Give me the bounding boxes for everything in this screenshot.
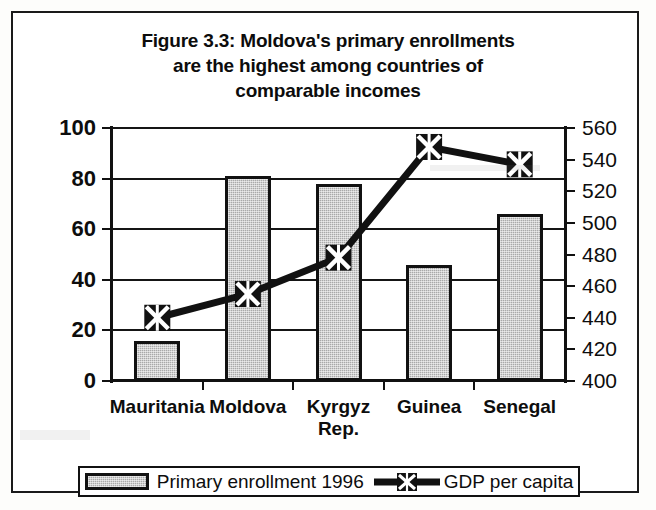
right-axis-tick (564, 159, 575, 161)
figure-page: Figure 3.3: Moldova's primary enrollment… (0, 0, 656, 510)
right-axis-tick (564, 317, 575, 319)
right-axis-tick-label: 460 (582, 274, 617, 298)
x-axis-category-label-line: Rep. (307, 418, 370, 440)
left-axis-tick (102, 178, 112, 180)
figure-title-line-2: are the highest among countries of (40, 53, 616, 78)
figure-title: Figure 3.3: Moldova's primary enrollment… (40, 28, 616, 103)
left-axis-tick (102, 228, 112, 230)
gdp-marker (507, 151, 533, 177)
gdp-marker (144, 305, 170, 331)
gdp-line (157, 147, 519, 318)
right-axis-tick-label: 540 (582, 148, 617, 172)
gdp-markers (144, 134, 532, 331)
legend-item-primary-enrollment: Primary enrollment 1996 (85, 471, 364, 493)
right-axis-tick-label: 480 (582, 243, 617, 267)
bar-swatch-icon (85, 473, 149, 490)
x-axis-category-label: Guinea (397, 396, 461, 418)
left-axis-tick (102, 279, 112, 281)
left-axis-tick (102, 380, 112, 382)
x-axis-category-label: Senegal (483, 396, 556, 418)
x-axis-category-label: KyrgyzRep. (307, 396, 370, 440)
left-axis-tick (102, 127, 112, 129)
left-axis-tick-label: 20 (72, 317, 96, 343)
x-axis-category-label: Moldova (209, 396, 286, 418)
figure-title-line-3: comparable incomes (40, 78, 616, 103)
gdp-marker (326, 245, 352, 271)
left-axis-tick-label: 0 (84, 368, 96, 394)
line-series (112, 128, 565, 381)
left-axis-tick-label: 40 (72, 267, 96, 293)
x-axis-category-label-line: Kyrgyz (307, 396, 370, 417)
right-axis-tick-label: 400 (582, 369, 617, 393)
line-x-marker-icon (374, 472, 440, 492)
right-axis-tick-label: 500 (582, 211, 617, 235)
right-axis-tick-label: 440 (582, 306, 617, 330)
x-axis-category-label-line: Senegal (483, 396, 556, 417)
right-axis-tick-label: 560 (582, 116, 617, 140)
right-axis-tick (564, 380, 575, 382)
right-axis-tick (564, 254, 575, 256)
right-axis-tick (564, 348, 575, 350)
x-axis-category-label: Mauritania (110, 396, 205, 418)
left-axis-tick-label: 80 (72, 166, 96, 192)
legend-label-primary-enrollment: Primary enrollment 1996 (157, 471, 364, 493)
plot-area: 020406080100 400420440460480500520540560… (112, 128, 565, 381)
right-axis-tick (564, 190, 575, 192)
left-axis-tick-label: 100 (59, 115, 96, 141)
right-axis-tick (564, 285, 575, 287)
chart-legend: Primary enrollment 1996 GDP per capita (78, 466, 580, 497)
x-axis-category-label-line: Guinea (397, 396, 461, 417)
left-axis-tick (102, 329, 112, 331)
x-axis-category-label-line: Mauritania (110, 396, 205, 417)
gdp-marker (235, 281, 261, 307)
legend-item-gdp-per-capita: GDP per capita (364, 471, 574, 493)
right-axis-tick-label: 420 (582, 337, 617, 361)
legend-label-gdp-per-capita: GDP per capita (444, 471, 574, 493)
right-axis-tick (564, 127, 575, 129)
left-axis-tick-label: 60 (72, 216, 96, 242)
figure-title-line-1: Figure 3.3: Moldova's primary enrollment… (40, 28, 616, 53)
right-axis-tick-label: 520 (582, 179, 617, 203)
x-axis-category-label-line: Moldova (209, 396, 286, 417)
right-axis-tick (564, 222, 575, 224)
gdp-marker (416, 134, 442, 160)
